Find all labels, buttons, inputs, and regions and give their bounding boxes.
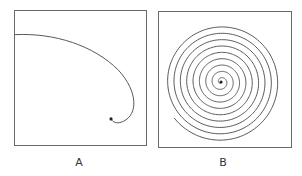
panel-a — [14, 10, 147, 146]
panel-a-label: A — [69, 156, 89, 169]
panel-b-label: B — [213, 156, 233, 169]
spiral-a-graphic — [15, 11, 146, 145]
spiral-b-center-dot — [219, 80, 222, 83]
panel-b — [158, 11, 292, 148]
spiral-b-graphic — [159, 12, 291, 147]
spiral-a-center-dot — [109, 117, 112, 120]
